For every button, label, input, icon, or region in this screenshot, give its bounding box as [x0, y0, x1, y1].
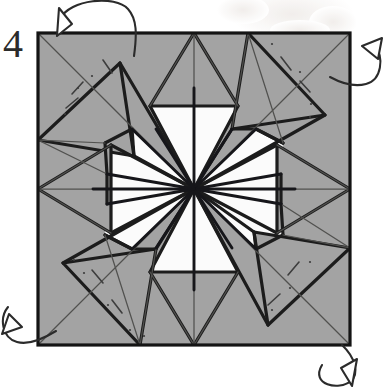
arrowhead-right	[362, 38, 382, 59]
paper-sheet	[38, 33, 350, 345]
step-number-label: 4	[3, 24, 23, 64]
arrowhead-left	[2, 314, 22, 334]
origami-diagram-canvas	[0, 0, 384, 389]
fold-behind-arrow-bottom	[319, 345, 357, 386]
arrowhead-bottom	[341, 359, 357, 386]
origami-diagram: 4	[0, 0, 384, 389]
